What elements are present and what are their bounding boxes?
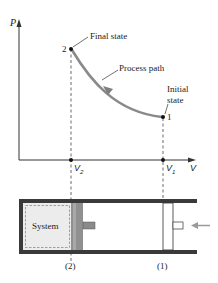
v-axis	[19, 158, 196, 163]
v-axis-arrow-icon	[188, 158, 196, 163]
v2-label: V2	[74, 164, 83, 175]
v1-axis-point	[161, 158, 165, 162]
state-1-label: 1	[167, 113, 172, 122]
state-2-point	[69, 47, 73, 51]
process-path-label: Process path	[119, 64, 164, 73]
cylinder-top-wall	[19, 199, 197, 203]
v2-subscript: 2	[80, 169, 83, 175]
p-axis-label: P	[10, 18, 16, 28]
process-path-leader	[102, 70, 118, 80]
v1-subscript: 1	[172, 169, 175, 175]
push-arrow-icon	[191, 222, 198, 229]
cylinder-end-wall	[19, 199, 23, 254]
initial-state-annotation-line2: state	[167, 96, 184, 105]
piston-rod-outline	[173, 222, 183, 229]
v2-axis-point	[69, 158, 73, 162]
system-label: System	[32, 222, 59, 231]
v-axis-label: V	[190, 164, 196, 173]
p-axis-arrow-icon	[17, 19, 22, 27]
process-path-curve	[72, 50, 162, 117]
state-1-point	[161, 115, 165, 119]
final-state-annotation: Final state	[90, 32, 127, 41]
position-2-label: (2)	[65, 262, 76, 271]
piston-rod	[83, 222, 95, 229]
v1-label: V1	[166, 164, 175, 175]
diagram-canvas	[0, 0, 218, 283]
position-1-label: (1)	[157, 262, 168, 271]
initial-state-annotation-line1: Initial	[167, 85, 189, 94]
state-2-label: 2	[62, 45, 67, 54]
final-state-leader	[73, 37, 88, 47]
cylinder-bottom-wall	[19, 250, 197, 254]
p-axis	[17, 19, 22, 160]
piston-position-2	[71, 203, 83, 250]
piston-position-1-outline	[163, 203, 173, 250]
